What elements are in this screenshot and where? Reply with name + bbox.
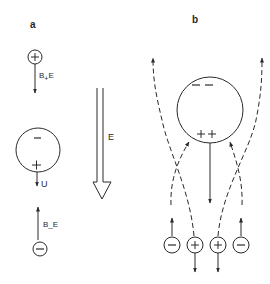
panel-label-b: b xyxy=(192,14,198,25)
diagram: a B+E U B_E E b xyxy=(0,0,270,284)
panel-label-a: a xyxy=(30,19,36,30)
electric-field-arrow-icon xyxy=(93,88,111,199)
negative-ion-icon xyxy=(33,242,47,256)
positive-ion-icon xyxy=(28,50,42,64)
charged-drop-icon xyxy=(177,77,243,143)
field-label: E xyxy=(108,132,114,142)
negative-ion-icon xyxy=(164,237,180,253)
positive-ion-icon xyxy=(187,237,203,253)
force-label-b-plus-e: B+E xyxy=(39,71,54,82)
ion-trajectory-right-outer xyxy=(218,58,262,236)
ion-trajectory-left-outer xyxy=(153,58,194,236)
negative-ion-icon xyxy=(233,237,249,253)
velocity-label: U xyxy=(41,179,48,189)
panel-a: a B+E U B_E E xyxy=(16,19,114,256)
panel-b: b xyxy=(153,14,262,272)
charged-drop-icon xyxy=(16,128,60,172)
force-label-b-minus-e: B_E xyxy=(43,220,58,229)
ion-row xyxy=(164,218,249,272)
positive-ion-icon xyxy=(210,237,226,253)
